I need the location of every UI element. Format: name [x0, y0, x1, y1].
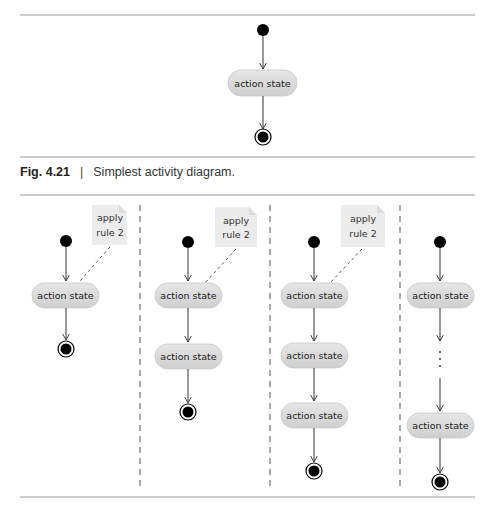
action-state-label: action state	[160, 351, 216, 362]
svg-text:apply: apply	[350, 213, 377, 224]
simplest-diagram: action state	[228, 24, 297, 145]
final-state-inner-icon	[258, 132, 269, 143]
action-state-label: action state	[412, 290, 468, 301]
svg-text:rule 2: rule 2	[222, 229, 249, 240]
svg-text:rule 2: rule 2	[349, 228, 376, 239]
action-state-label: action state	[286, 290, 342, 301]
activity-diagrams: action state apply rule 2 action state a…	[0, 0, 495, 508]
panel-1: apply rule 2 action state	[32, 205, 127, 357]
panel-2: apply rule 2 action state action state	[155, 207, 257, 420]
figure-caption-text: Simplest activity diagram.	[93, 165, 235, 179]
svg-text:rule 2: rule 2	[96, 227, 123, 238]
note-anchor-line	[330, 249, 362, 283]
initial-state-icon	[434, 236, 446, 248]
panel-3: apply rule 2 action state action state a…	[281, 205, 385, 479]
figure-number: Fig. 4.21	[20, 165, 70, 179]
panel-4: action state action state	[407, 236, 474, 490]
action-state-label: action state	[286, 410, 342, 421]
action-state-label: action state	[234, 78, 290, 89]
figure-caption: Fig. 4.21|Simplest activity diagram.	[20, 165, 235, 179]
action-state-label: action state	[286, 350, 342, 361]
initial-state-icon	[257, 24, 269, 36]
ellipsis-icon	[439, 351, 441, 367]
initial-state-icon	[182, 236, 194, 248]
svg-text:apply: apply	[97, 212, 124, 223]
svg-text:apply: apply	[223, 215, 250, 226]
initial-state-icon	[60, 235, 72, 247]
action-state-label: action state	[37, 290, 93, 301]
note-anchor-line	[80, 247, 110, 281]
caption-divider: |	[80, 165, 83, 179]
action-state-label: action state	[412, 420, 468, 431]
note-anchor-line	[205, 249, 236, 283]
initial-state-icon	[308, 236, 320, 248]
action-state-label: action state	[160, 290, 216, 301]
